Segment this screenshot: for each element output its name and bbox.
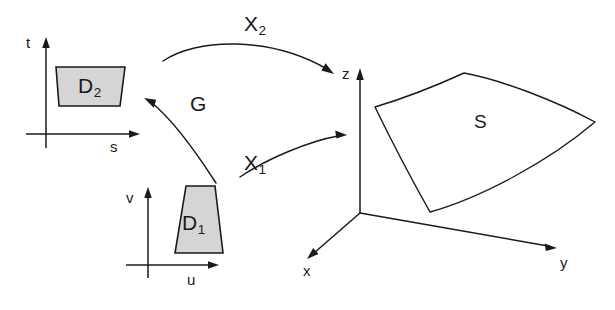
domain2-label-base: D [78, 74, 93, 97]
surface-label: S [474, 112, 487, 131]
map-x2-label-subscript: 2 [259, 23, 266, 38]
map-x2-arrow-curve [163, 44, 327, 69]
figure-canvas: t s D2 v u D1 z y x S X2 X1 G [0, 0, 615, 310]
y-axis-line [360, 213, 548, 246]
s-axis-label: s [110, 139, 118, 154]
map-x1-arrowhead [335, 131, 347, 139]
t-axis-label: t [26, 35, 30, 50]
v-axis-arrowhead [144, 187, 152, 198]
domain1-label: D1 [182, 212, 205, 233]
map-x1-label-base: X [244, 151, 258, 174]
t-axis-arrowhead [42, 37, 50, 48]
u-axis-arrowhead [208, 261, 219, 269]
map-x2-label-base: X [244, 12, 258, 35]
map-x2-arrowhead [321, 63, 334, 74]
v-axis-label: v [126, 190, 134, 205]
map-g-arrow-curve [152, 103, 216, 183]
y-axis-arrowhead [545, 243, 557, 251]
surface-patch-shape [375, 73, 595, 212]
s-axis-arrowhead [129, 130, 140, 138]
z-axis-label: z [342, 66, 350, 81]
y-axis-label: y [560, 255, 568, 270]
z-axis-arrowhead [356, 68, 364, 80]
map-x2-arrow [163, 44, 334, 74]
domain2-label-subscript: 2 [94, 85, 101, 100]
map-g-label: G [190, 93, 206, 114]
domain1-label-subscript: 1 [198, 222, 205, 237]
domain2-label: D2 [78, 75, 101, 96]
x-axis-label: x [303, 263, 311, 278]
domain1-label-base: D [182, 211, 197, 234]
map-x1-label-subscript: 1 [259, 162, 266, 177]
x-axis-line [314, 213, 360, 253]
map-g-arrowhead [144, 98, 156, 108]
map-x2-label: X2 [244, 13, 266, 34]
map-x1-label: X1 [244, 152, 266, 173]
u-axis-label: u [187, 272, 195, 287]
